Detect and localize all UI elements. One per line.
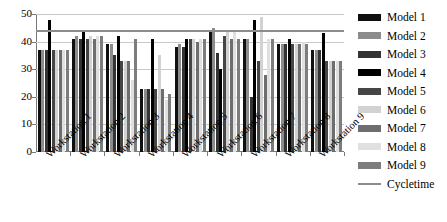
legend-item[interactable]: Model 9	[358, 156, 446, 175]
legend-item[interactable]: Cycletime	[358, 175, 446, 194]
legend-label: Model 3	[387, 48, 426, 60]
legend-color-swatch	[358, 106, 381, 113]
legend-color-swatch	[358, 162, 381, 169]
legend-color-swatch	[358, 14, 381, 21]
legend-color-swatch	[358, 125, 381, 132]
x-axis-labels: Workstation 1Workstation 2Workstation 3W…	[36, 152, 356, 222]
y-tick-label: 0	[4, 146, 32, 157]
y-tick-label: 20	[4, 91, 32, 102]
legend-item[interactable]: Model 4	[358, 64, 446, 83]
legend-item[interactable]: Model 3	[358, 45, 446, 64]
chart-legend: Model 1Model 2Model 3Model 4Model 5Model…	[358, 8, 446, 193]
legend-item[interactable]: Model 8	[358, 138, 446, 157]
legend-label: Model 4	[387, 67, 426, 79]
legend-item[interactable]: Model 1	[358, 8, 446, 27]
legend-label: Model 5	[387, 85, 426, 97]
legend-color-swatch	[358, 88, 381, 95]
legend-label: Cycletime	[387, 178, 434, 190]
y-tick-label: 50	[4, 8, 32, 19]
y-tick-label: 30	[4, 63, 32, 74]
y-tick-mark	[32, 14, 36, 15]
y-tick-label: 10	[4, 118, 32, 129]
legend-label: Model 1	[387, 11, 426, 23]
legend-color-swatch	[358, 143, 381, 150]
legend-label: Model 9	[387, 159, 426, 171]
y-tick-mark	[32, 69, 36, 70]
legend-line-swatch	[358, 183, 381, 185]
legend-label: Model 8	[387, 141, 426, 153]
legend-item[interactable]: Model 7	[358, 119, 446, 138]
plot-area: 01020304050	[36, 14, 344, 152]
chart-root: 01020304050 Workstation 1Workstation 2Wo…	[0, 0, 447, 222]
y-tick-label: 40	[4, 36, 32, 47]
legend-label: Model 7	[387, 122, 426, 134]
y-tick-mark	[32, 124, 36, 125]
y-tick-mark	[32, 97, 36, 98]
legend-label: Model 2	[387, 30, 426, 42]
legend-color-swatch	[358, 32, 381, 39]
cycletime-reference-line	[36, 30, 344, 32]
legend-label: Model 6	[387, 104, 426, 116]
legend-item[interactable]: Model 6	[358, 101, 446, 120]
legend-item[interactable]: Model 5	[358, 82, 446, 101]
y-tick-mark	[32, 42, 36, 43]
legend-color-swatch	[358, 69, 381, 76]
legend-item[interactable]: Model 2	[358, 27, 446, 46]
legend-color-swatch	[358, 51, 381, 58]
